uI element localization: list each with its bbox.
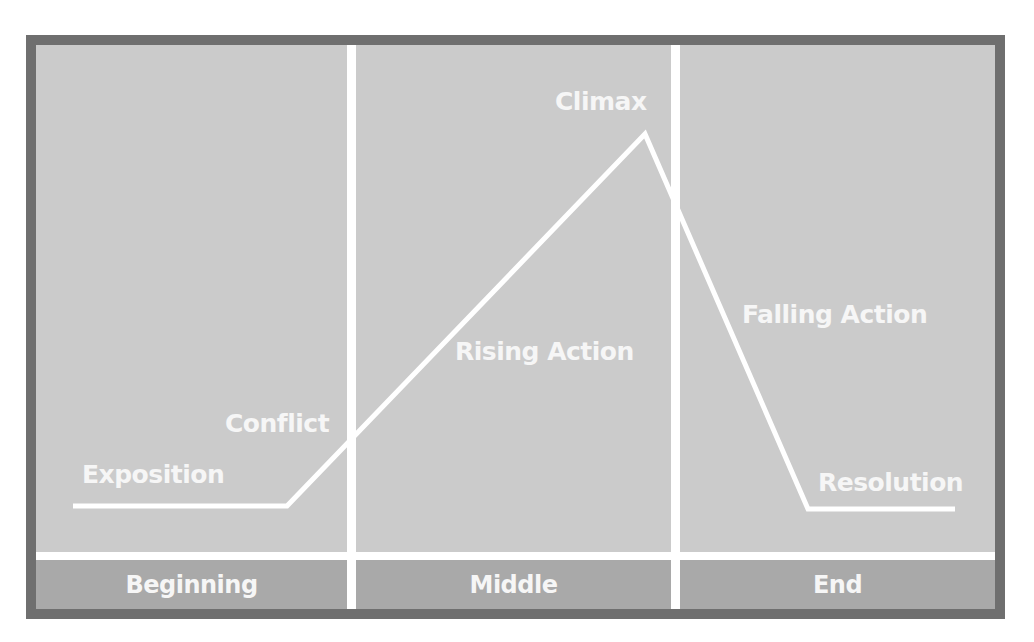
stage-label-rising-action: Rising Action (455, 337, 634, 366)
stage-label-resolution: Resolution (818, 468, 963, 497)
stage-label-exposition: Exposition (82, 460, 224, 489)
stage-label-climax: Climax (555, 87, 647, 116)
section-label-beginning: Beginning (36, 567, 347, 603)
stage-label-conflict: Conflict (225, 409, 329, 438)
plot-diagram-frame: Climax Rising Action Falling Action Conf… (26, 35, 1005, 619)
section-label-middle: Middle (356, 567, 671, 603)
section-label-end: End (680, 567, 995, 603)
stage-label-falling-action: Falling Action (742, 300, 927, 329)
